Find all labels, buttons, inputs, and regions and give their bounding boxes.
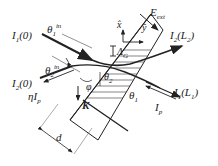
label-lambda-g: ΛG (117, 47, 128, 57)
label-eta-ip: ηIp (28, 91, 41, 102)
thickness-dimension (40, 104, 92, 154)
label-i1-0: I1(0) (12, 30, 32, 41)
label-i2-l2: I2(L2) (170, 30, 194, 41)
label-theta1-in: θ1in (47, 24, 61, 35)
label-k: K (82, 100, 89, 111)
label-theta2: θ2 (104, 72, 112, 82)
beam-i1-in (42, 34, 92, 60)
label-d: d (56, 132, 62, 143)
label-ip: Ip (155, 102, 162, 113)
label-e-ext: Eext (150, 7, 165, 18)
label-i1-l1: I1(L1) (174, 87, 198, 98)
label-x-hat: x̂ (117, 20, 121, 30)
label-theta1: θ1 (129, 90, 138, 101)
beam-i2-out (92, 46, 182, 65)
label-i2-0: I2(0) (12, 78, 32, 89)
beam-ip (146, 86, 176, 99)
coordinate-axes (123, 30, 143, 42)
label-theta2-in: θ2in (45, 65, 59, 76)
label-y-hat: ŷ (142, 23, 146, 33)
grating-period-marker (110, 46, 116, 56)
theta2-in-arc (66, 58, 69, 67)
label-phi: φ (86, 82, 92, 92)
